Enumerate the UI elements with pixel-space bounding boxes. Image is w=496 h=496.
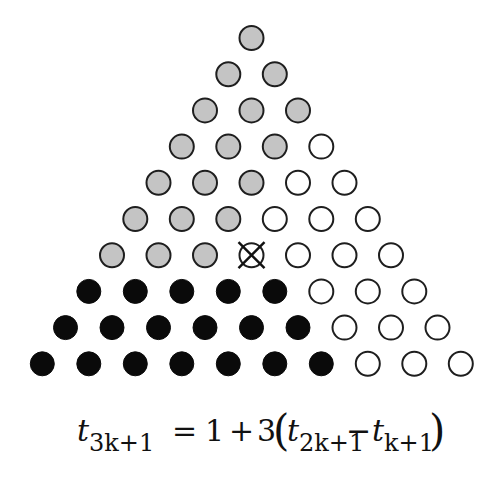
dot-circle [123,207,147,231]
gray-dot [216,135,240,159]
black-dot [54,316,78,340]
formula-minus: − [346,413,371,448]
white-dot [263,207,287,231]
dot-circle [263,207,287,231]
dot-circle [77,279,101,303]
white-dot [379,316,403,340]
black-dot [263,279,287,303]
dot-circle [402,352,426,376]
black-dot [286,316,310,340]
black-dot [170,352,194,376]
dot-circle [286,98,310,122]
dot-circle [379,243,403,267]
gray-dot [286,98,310,122]
white-dot [333,243,357,267]
dot-circle [54,316,78,340]
dot-circle [216,62,240,86]
dot-circle [193,243,217,267]
gray-dot [216,62,240,86]
dot-circle [286,171,310,195]
dot-circle [216,207,240,231]
white-dot [379,243,403,267]
crossed-dot [239,242,265,268]
dot-circle [100,316,124,340]
dot-circle [216,135,240,159]
dot-circle [240,171,264,195]
white-dot [333,316,357,340]
dot-circle [309,279,333,303]
dot-circle [379,316,403,340]
white-dot [356,352,380,376]
black-dot [123,352,147,376]
dot-circle [333,171,357,195]
formula: t 3k+1 = 1 + 3 ( t 2k+1 − t k+1 ) [0,405,496,475]
dot-circle [263,279,287,303]
dot-circle [147,171,171,195]
black-dot [77,352,101,376]
dot-circle [356,279,380,303]
dot-circle [426,316,450,340]
white-dot [449,352,473,376]
white-dot [402,279,426,303]
gray-dot [240,171,264,195]
dot-circle [123,279,147,303]
gray-dot [263,135,287,159]
dot-circle [170,207,194,231]
gray-dot [216,207,240,231]
black-dot [263,352,287,376]
gray-dot [170,135,194,159]
white-dot [402,352,426,376]
dot-circle [356,352,380,376]
black-dot [193,316,217,340]
dot-circle [170,279,194,303]
gray-dot [147,171,171,195]
gray-dot [147,243,171,267]
dot-circle [333,316,357,340]
gray-dot [100,243,124,267]
black-dot [170,279,194,303]
formula-equals: = [172,413,197,448]
dot-circle [449,352,473,376]
dot-circle [147,316,171,340]
formula-one: 1 [205,413,224,448]
dot-circle [100,243,124,267]
dot-circle [309,207,333,231]
gray-dot [193,98,217,122]
dot-circle [123,352,147,376]
dot-circle [333,243,357,267]
dot-circle [170,352,194,376]
gray-dot [263,62,287,86]
white-dot [356,207,380,231]
dot-circle [263,62,287,86]
dot-circle [286,316,310,340]
gray-dot [193,243,217,267]
white-dot [426,316,450,340]
dot-circle [309,352,333,376]
white-dot [356,279,380,303]
formula-lhs-sub-text: 3k+1 [89,429,154,457]
gray-dot [170,207,194,231]
black-dot [240,316,264,340]
black-dot [30,352,54,376]
dot-circle [193,316,217,340]
dot-circle [77,352,101,376]
dot-circle [240,316,264,340]
gray-dot [193,171,217,195]
black-dot [100,316,124,340]
dot-circle [193,98,217,122]
dot-circle [286,243,310,267]
formula-plus: + [229,413,254,448]
black-dot [147,316,171,340]
white-dot [309,135,333,159]
gray-dot [240,26,264,50]
dot-circle [240,26,264,50]
dot-circle [216,352,240,376]
formula-lhs-subscript: 3k+1 [89,429,154,457]
dot-circle [240,98,264,122]
white-dot [333,171,357,195]
dot-circle [402,279,426,303]
black-dot [77,279,101,303]
white-dot [286,171,310,195]
black-dot [216,279,240,303]
dot-circle [170,135,194,159]
